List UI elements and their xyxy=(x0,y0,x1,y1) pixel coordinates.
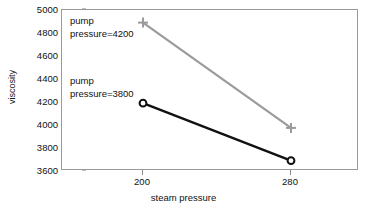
series-pump-pressure-3800 xyxy=(140,100,295,164)
y-tick-label: 4000 xyxy=(26,119,58,130)
x-tick-mark xyxy=(142,170,143,175)
y-tick-label: 3800 xyxy=(26,142,58,153)
y-tick-label: 3600 xyxy=(26,165,58,176)
series-layer xyxy=(62,10,359,171)
y-axis-title: viscosity xyxy=(7,57,17,117)
series-marker-black-left xyxy=(140,100,147,107)
series-pump-pressure-4200 xyxy=(138,18,296,133)
x-tick-label-200: 200 xyxy=(134,176,150,187)
y-tick-label: 4200 xyxy=(26,96,58,107)
y-tick-label: 5000 xyxy=(26,4,58,15)
x-tick-label-280: 280 xyxy=(282,176,298,187)
y-tick-label: 4800 xyxy=(26,27,58,38)
x-axis-title: steam pressure xyxy=(0,192,367,203)
plot-area: pump pressure=4200 pump pressure=3800 xyxy=(61,9,358,170)
y-axis-tick-labels: 5000 4800 4600 4400 4200 4000 3800 3600 xyxy=(26,0,58,176)
chart-container: viscosity 5000 4800 4600 4400 4200 4000 … xyxy=(0,0,367,212)
series-marker-black-right xyxy=(288,157,295,164)
y-tick-label: 4600 xyxy=(26,50,58,61)
x-tick-mark xyxy=(290,170,291,175)
y-tick-label: 4400 xyxy=(26,73,58,84)
